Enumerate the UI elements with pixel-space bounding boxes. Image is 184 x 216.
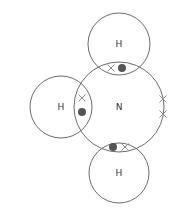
atom-label-h-left: H <box>58 102 65 112</box>
dot-electron-icon <box>118 64 126 72</box>
cross-electron-icon <box>108 65 115 72</box>
atom-shells <box>30 13 164 203</box>
dot-electron-icon <box>78 108 86 116</box>
dot-electron-icon <box>109 143 117 151</box>
atom-labels: N H H H <box>58 39 123 178</box>
ammonia-dot-cross-diagram: N H H H <box>0 0 184 216</box>
atom-label-h-bottom: H <box>116 168 123 178</box>
atom-label-h-top: H <box>116 39 123 49</box>
atom-label-n: N <box>116 102 123 112</box>
cross-electron-icon <box>79 95 86 102</box>
cross-electron-icon <box>122 144 129 151</box>
